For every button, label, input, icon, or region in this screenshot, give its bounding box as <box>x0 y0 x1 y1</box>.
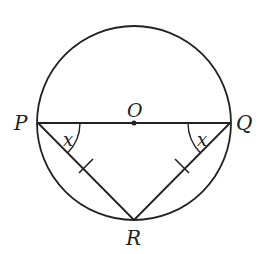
label-r: R <box>125 226 141 250</box>
label-o: O <box>127 99 143 121</box>
angle-label-q: x <box>197 129 207 150</box>
label-q: Q <box>236 111 252 135</box>
circle-diagram: P Q O R x x <box>0 0 260 254</box>
segment-qr <box>134 123 230 220</box>
segment-pr <box>38 123 134 220</box>
label-p: P <box>13 111 28 135</box>
angle-label-p: x <box>63 129 73 150</box>
center-point-o <box>132 121 137 126</box>
